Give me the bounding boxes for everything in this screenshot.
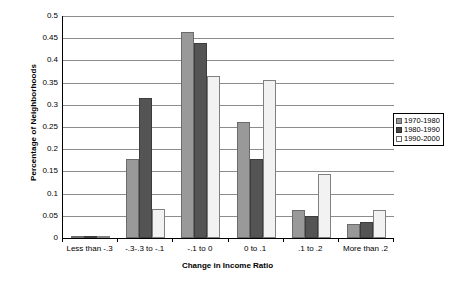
- bar[interactable]: [250, 159, 263, 238]
- legend-swatch-icon: [396, 118, 402, 124]
- x-axis-tick-label: Less than -.3: [62, 244, 117, 254]
- x-axis-tick-labels: Less than -.3-.3-.3 to -.1-.1 to 00 to .…: [62, 244, 393, 254]
- bar-groups: [63, 16, 394, 238]
- legend-item-label: 1980-1990: [404, 126, 440, 134]
- y-axis-tick-label: 0.1: [24, 190, 58, 198]
- legend: 1970-19801980-19901990-2000: [393, 113, 444, 146]
- y-axis-tick-label: 0: [24, 234, 58, 242]
- bar[interactable]: [318, 174, 331, 238]
- bar[interactable]: [194, 43, 207, 238]
- y-axis-tick-label: 0.3: [24, 101, 58, 109]
- legend-item[interactable]: 1970-1980: [396, 116, 440, 125]
- bar[interactable]: [207, 76, 220, 238]
- x-axis-tick-label: More than .2: [338, 244, 393, 254]
- bar[interactable]: [360, 222, 373, 238]
- bar-group: [118, 16, 173, 238]
- bar-chart: Percentage of Neighborhoods 0.50.450.40.…: [0, 0, 460, 285]
- legend-item[interactable]: 1990-2000: [396, 134, 440, 143]
- bar[interactable]: [152, 209, 165, 238]
- bar[interactable]: [263, 80, 276, 239]
- x-axis-tick-mark: [172, 238, 173, 242]
- bar[interactable]: [181, 32, 194, 238]
- bar[interactable]: [347, 224, 360, 238]
- bar[interactable]: [237, 122, 250, 238]
- y-axis-tick-label: 0.45: [24, 34, 58, 42]
- bar[interactable]: [373, 210, 386, 238]
- legend-swatch-icon: [396, 136, 402, 142]
- y-axis-tick-label: 0.15: [24, 167, 58, 175]
- bar[interactable]: [126, 159, 139, 238]
- y-axis-tick-label: 0.25: [24, 123, 58, 131]
- bar[interactable]: [305, 216, 318, 238]
- y-axis-tick-label: 0.2: [24, 145, 58, 153]
- plot-area: [62, 16, 394, 239]
- legend-item-label: 1990-2000: [404, 135, 440, 143]
- y-axis-tick-label: 0.5: [24, 12, 58, 20]
- bar[interactable]: [139, 98, 152, 238]
- bar[interactable]: [292, 210, 305, 238]
- x-axis-tick-mark: [283, 238, 284, 242]
- legend-swatch-icon: [396, 127, 402, 133]
- x-axis-tick-label: -.1 to 0: [172, 244, 227, 254]
- bar-group: [63, 16, 118, 238]
- x-axis-title: Change in Income Ratio: [62, 261, 393, 270]
- bar-group: [339, 16, 394, 238]
- x-axis-tick-label: 0 to .1: [228, 244, 283, 254]
- x-axis-tick-mark: [62, 238, 63, 242]
- x-axis-tick-marks: [62, 238, 394, 242]
- bar-group: [173, 16, 228, 238]
- x-axis-tick-label: .1 to .2: [283, 244, 338, 254]
- x-axis-tick-mark: [117, 238, 118, 242]
- y-axis-tick-label: 0.4: [24, 56, 58, 64]
- bar-group: [284, 16, 339, 238]
- y-axis-tick-labels: 0.50.450.40.350.30.250.20.150.10.050: [24, 16, 58, 238]
- x-axis-tick-mark: [228, 238, 229, 242]
- bar-group: [229, 16, 284, 238]
- legend-item[interactable]: 1980-1990: [396, 125, 440, 134]
- x-axis-tick-mark: [393, 238, 394, 242]
- x-axis-tick-mark: [338, 238, 339, 242]
- legend-item-label: 1970-1980: [404, 117, 440, 125]
- y-axis-tick-label: 0.35: [24, 79, 58, 87]
- y-axis-tick-label: 0.05: [24, 212, 58, 220]
- x-axis-tick-label: -.3-.3 to -.1: [117, 244, 172, 254]
